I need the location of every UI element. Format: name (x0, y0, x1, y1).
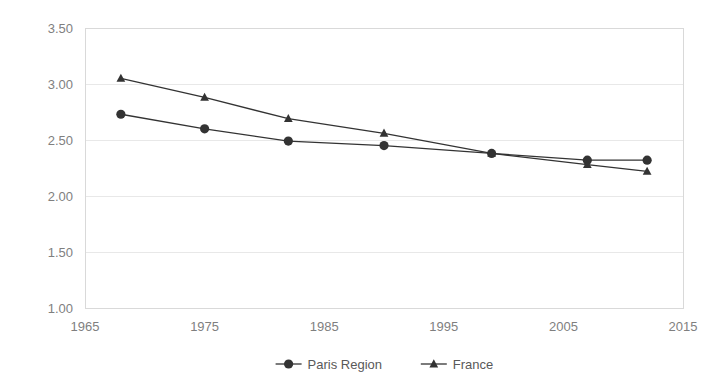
y-axis-tick-label: 3.50 (48, 21, 73, 36)
series-line (121, 114, 647, 160)
gridlines (85, 29, 683, 309)
y-axis-tick-label: 1.00 (48, 301, 73, 316)
legend-label: Paris Region (308, 357, 382, 372)
y-axis-tick-label: 2.50 (48, 133, 73, 148)
x-axis-tick-label: 2005 (549, 319, 578, 334)
line-chart: 1.001.502.002.503.003.50 196519751985199… (0, 0, 721, 384)
x-axis-tick-label: 1995 (429, 319, 458, 334)
x-axis-tick-label: 1975 (190, 319, 219, 334)
legend-marker-circle (284, 359, 293, 368)
y-axis-tick-labels: 1.001.502.002.503.003.50 (48, 21, 73, 316)
data-series (116, 74, 651, 175)
series-paris-region (116, 110, 651, 165)
data-point-marker-circle (379, 141, 388, 150)
series-line (121, 78, 647, 171)
y-axis-tick-label: 1.50 (48, 245, 73, 260)
plot-border-rect (86, 29, 684, 309)
x-axis-tick-label: 1965 (71, 319, 100, 334)
chart-canvas: 1.001.502.002.503.003.50 196519751985199… (0, 0, 721, 384)
x-axis-tick-labels: 196519751985199520052015 (71, 319, 698, 334)
chart-legend: Paris RegionFrance (276, 357, 494, 372)
legend-item-paris-region[interactable]: Paris Region (276, 357, 382, 372)
x-axis-tick-label: 2015 (669, 319, 698, 334)
x-axis-tick-label: 1985 (310, 319, 339, 334)
data-point-marker-circle (284, 137, 293, 146)
data-point-marker-circle (116, 110, 125, 119)
plot-area-border (86, 29, 684, 309)
y-axis-tick-label: 3.00 (48, 77, 73, 92)
data-point-marker-circle (200, 124, 209, 133)
y-axis-tick-label: 2.00 (48, 189, 73, 204)
legend-label: France (453, 357, 493, 372)
data-point-marker-triangle (117, 74, 126, 82)
data-point-marker-circle (643, 156, 652, 165)
legend-item-france[interactable]: France (421, 357, 493, 372)
